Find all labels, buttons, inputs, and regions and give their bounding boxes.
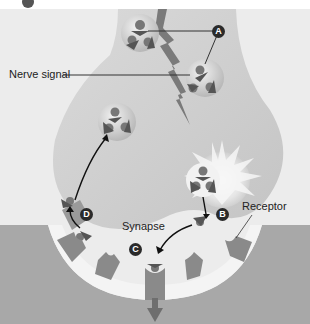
step-badge-d: D <box>80 208 93 221</box>
vesicle-fusing <box>186 163 220 197</box>
receptor-label: Receptor <box>242 200 287 212</box>
vesicle-middle <box>186 59 224 97</box>
header-step-icon <box>22 0 34 8</box>
step-badge-c: C <box>129 243 142 256</box>
vesicle-top <box>121 14 159 52</box>
synapse-label: Synapse <box>122 220 165 232</box>
step-badge-a: A <box>212 25 225 38</box>
vesicle-recycled <box>98 103 136 141</box>
nerve-signal-label: Nerve signal <box>9 68 70 80</box>
step-badge-b: B <box>216 208 229 221</box>
diagram-canvas <box>0 0 310 324</box>
synapse-diagram: Nerve signal Synapse Receptor A B C D <box>0 0 310 324</box>
